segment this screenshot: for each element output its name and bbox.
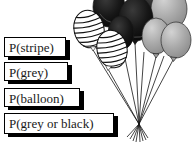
label-p-grey[interactable]: P(grey) [4, 62, 68, 81]
grey-balloon [161, 22, 191, 58]
label-p-balloon[interactable]: P(balloon) [4, 88, 80, 107]
label-p-grey-or-black[interactable]: P(grey or black) [4, 113, 114, 134]
worksheet-diagram: P(stripe) P(grey) P(balloon) P(grey or b… [0, 0, 193, 143]
label-p-stripe[interactable]: P(stripe) [4, 37, 66, 57]
